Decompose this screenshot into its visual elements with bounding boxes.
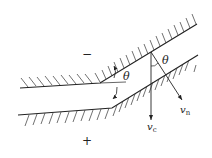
theta-bend-label: θ bbox=[123, 70, 130, 83]
lower-wall bbox=[18, 55, 198, 126]
vector-angle-arc bbox=[151, 63, 158, 66]
minus-sign: − bbox=[82, 47, 92, 61]
angle-arc-bottom bbox=[113, 87, 117, 99]
upper-wall-hatching bbox=[21, 14, 196, 87]
velocity-vectors: θ vc vn bbox=[147, 52, 191, 134]
theta-vector-label: θ bbox=[162, 54, 169, 67]
plus-sign: + bbox=[82, 134, 92, 148]
lower-wall-hatching bbox=[25, 60, 196, 126]
channel-bend-diagram: θ θ vc vn − + bbox=[0, 0, 212, 158]
upper-wall bbox=[20, 14, 197, 88]
angle-arc-top bbox=[114, 66, 116, 78]
bend-angle-indicator: θ bbox=[100, 66, 130, 99]
v-n-label: vn bbox=[180, 104, 191, 117]
v-c-label: vc bbox=[147, 121, 157, 134]
